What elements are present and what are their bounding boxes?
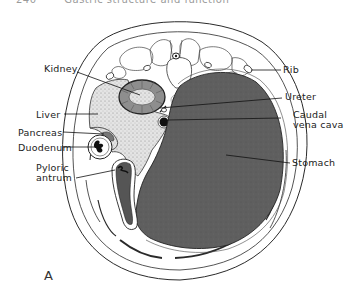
- panel-letter: A: [44, 268, 53, 283]
- label-duodenum: Duodenum: [18, 143, 72, 153]
- pyloric-antrum: [112, 159, 137, 229]
- label-stomach: Stomach: [292, 158, 335, 168]
- label-pancreas: Pancreas: [18, 128, 62, 138]
- kidney: [119, 80, 165, 114]
- label-caudal-vena-cava: Caudal vena cava: [293, 110, 344, 130]
- label-ureter: Ureter: [285, 92, 316, 102]
- label-rib: Rib: [283, 65, 299, 75]
- label-kidney: Kidney: [44, 64, 78, 74]
- label-liver: Liver: [36, 110, 60, 120]
- label-pyloric-antrum: Pyloric antrum: [36, 163, 72, 183]
